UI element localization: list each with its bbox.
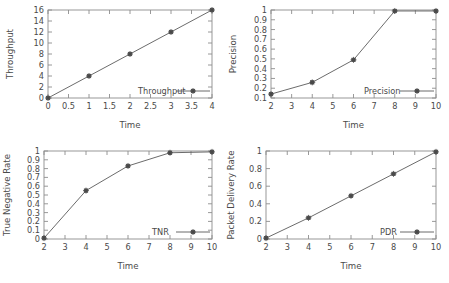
- x-tick-label: 3: [62, 242, 67, 252]
- legend: TNR: [151, 227, 210, 237]
- series-markers: [41, 149, 215, 241]
- y-tick-label: 8: [39, 49, 44, 59]
- x-axis-label: Time: [342, 120, 364, 130]
- panel-pdr: 234567891000.20.40.60.81TimePacket Deliv…: [224, 141, 449, 283]
- y-tick-label: 0.9: [254, 15, 267, 25]
- y-tick-label: 0.8: [249, 164, 262, 174]
- y-tick-label: 0.4: [254, 64, 267, 74]
- x-tick-label: 6: [348, 242, 353, 252]
- x-tick-label: 5: [104, 242, 109, 252]
- y-tick-label: 4: [39, 71, 44, 81]
- y-tick-label: 14: [34, 16, 44, 26]
- x-tick-label: 8: [392, 101, 397, 111]
- y-tick-label: 0.4: [27, 199, 40, 209]
- y-tick-label: 6: [39, 60, 44, 70]
- x-tick-label: 7: [146, 242, 151, 252]
- x-tick-label: 4: [310, 101, 315, 111]
- y-tick-label: 0.6: [254, 44, 267, 54]
- y-tick-label: 0.1: [27, 225, 40, 235]
- y-tick-label: 0.9: [27, 155, 40, 165]
- y-tick-label: 0.6: [249, 181, 262, 191]
- y-tick-label: 0.2: [249, 216, 262, 226]
- series-line: [271, 11, 436, 94]
- x-tick-label: 0.5: [62, 101, 75, 111]
- x-tick-label: 10: [431, 242, 441, 252]
- x-tick-label: 8: [391, 242, 396, 252]
- x-tick-label: 9: [188, 242, 193, 252]
- y-tick-label: 0: [35, 234, 40, 244]
- x-tick-label: 7: [370, 242, 375, 252]
- y-tick-label: 10: [34, 38, 44, 48]
- y-tick-label: 2: [39, 82, 44, 92]
- y-tick-label: 1: [257, 146, 262, 156]
- chart-precision: 23456789100.10.20.30.40.50.60.70.80.91Ti…: [224, 0, 449, 142]
- y-tick-label: 0.7: [27, 172, 40, 182]
- x-tick-label: 9: [412, 242, 417, 252]
- y-tick-label: 0.7: [254, 34, 267, 44]
- y-tick-label: 1: [35, 146, 40, 156]
- y-tick-label: 12: [34, 27, 44, 37]
- x-tick-label: 4: [306, 242, 311, 252]
- figure-grid: 00.511.522.533.540246810121416TimeThroug…: [0, 0, 449, 283]
- y-tick-label: 0: [257, 234, 262, 244]
- y-tick-label: 0.5: [254, 54, 267, 64]
- x-tick-label: 5: [330, 101, 335, 111]
- legend: PDR: [380, 227, 434, 237]
- chart-pdr: 234567891000.20.40.60.81TimePacket Deliv…: [224, 141, 449, 283]
- x-tick-label: 2: [263, 242, 268, 252]
- x-tick-label: 2: [127, 101, 132, 111]
- x-tick-label: 8: [167, 242, 172, 252]
- chart-tnr: 234567891000.10.20.30.40.50.60.70.80.91T…: [0, 141, 225, 283]
- series-markers: [268, 8, 439, 97]
- chart-throughput: 00.511.522.533.540246810121416TimeThroug…: [0, 0, 225, 142]
- y-tick-label: 0.1: [254, 93, 267, 103]
- x-tick-label: 2: [41, 242, 46, 252]
- y-axis-label: Packet Delivery Rate: [226, 151, 236, 240]
- x-tick-label: 5: [327, 242, 332, 252]
- x-tick-label: 3: [168, 101, 173, 111]
- x-tick-label: 6: [125, 242, 130, 252]
- x-tick-label: 3.5: [185, 101, 198, 111]
- x-tick-label: 4: [83, 242, 88, 252]
- y-tick-label: 16: [34, 5, 44, 15]
- legend-label: TNR: [151, 227, 169, 237]
- y-axis-label: Precision: [228, 35, 238, 73]
- legend-label: Precision: [364, 86, 401, 96]
- panel-throughput: 00.511.522.533.540246810121416TimeThroug…: [0, 0, 225, 142]
- y-tick-label: 0.8: [27, 164, 40, 174]
- legend: Throughput: [137, 86, 210, 96]
- legend-label: PDR: [380, 227, 397, 237]
- y-tick-label: 1: [262, 5, 267, 15]
- x-tick-label: 1: [86, 101, 91, 111]
- y-tick-label: 0.3: [254, 73, 267, 83]
- panel-precision: 23456789100.10.20.30.40.50.60.70.80.91Ti…: [224, 0, 449, 142]
- x-tick-label: 10: [207, 242, 217, 252]
- y-tick-label: 0.2: [254, 83, 267, 93]
- legend: Precision: [364, 86, 434, 96]
- x-axis-label: Time: [339, 261, 361, 271]
- series-markers: [45, 7, 215, 101]
- x-tick-label: 10: [431, 101, 441, 111]
- x-axis-label: Time: [116, 261, 138, 271]
- x-tick-label: 7: [372, 101, 377, 111]
- x-tick-label: 4: [209, 101, 214, 111]
- x-tick-label: 3: [289, 101, 294, 111]
- x-tick-label: 6: [351, 101, 356, 111]
- x-tick-label: 2.5: [144, 101, 157, 111]
- x-tick-label: 9: [413, 101, 418, 111]
- x-axis-label: Time: [118, 120, 140, 130]
- y-axis-label: Throughput: [5, 28, 15, 80]
- y-tick-label: 0.8: [254, 25, 267, 35]
- y-tick-label: 0.2: [27, 216, 40, 226]
- y-tick-label: 0.5: [27, 190, 40, 200]
- x-tick-label: 1.5: [103, 101, 116, 111]
- x-tick-label: 0: [45, 101, 50, 111]
- y-axis-label: True Negative Rate: [2, 154, 12, 237]
- panel-tnr: 234567891000.10.20.30.40.50.60.70.80.91T…: [0, 141, 225, 283]
- y-tick-label: 0.4: [249, 199, 262, 209]
- x-tick-label: 2: [268, 101, 273, 111]
- x-tick-label: 3: [285, 242, 290, 252]
- y-tick-label: 0: [39, 93, 44, 103]
- y-tick-label: 0.3: [27, 208, 40, 218]
- y-tick-label: 0.6: [27, 181, 40, 191]
